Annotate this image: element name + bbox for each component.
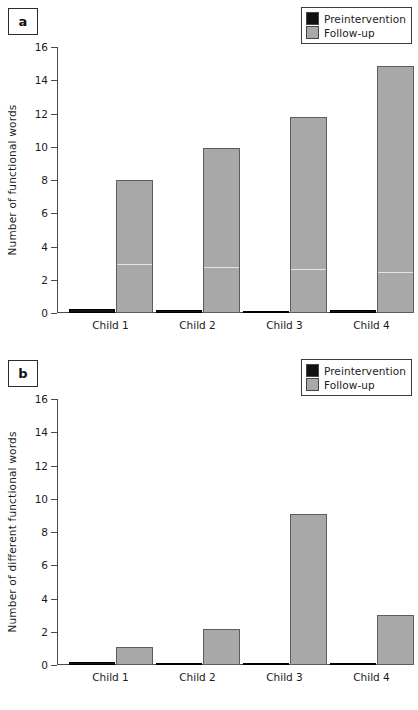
legend-label-preintervention: Preintervention	[324, 365, 406, 377]
legend-panel-b: Preintervention Follow-up	[301, 359, 412, 396]
x-tick-label: Child 4	[353, 671, 390, 683]
bar-preintervention	[243, 663, 289, 665]
bar-preintervention	[330, 310, 376, 313]
bar-group: Child 3	[231, 399, 318, 665]
y-tick-label: 6	[41, 207, 48, 219]
y-tick-label: 14	[35, 426, 48, 438]
y-tick-mark	[51, 313, 57, 314]
y-tick-label: 0	[41, 307, 48, 319]
bar-preintervention	[69, 309, 115, 313]
y-tick-label: 8	[41, 174, 48, 186]
y-tick-label: 14	[35, 74, 48, 86]
y-tick-mark	[51, 665, 57, 666]
x-tick-label: Child 2	[179, 319, 216, 331]
legend-item-followup: Follow-up	[306, 26, 406, 39]
figure-panels: a Preintervention Follow-up Number of fu…	[0, 0, 418, 710]
legend-swatch-followup-icon	[306, 378, 319, 391]
legend-swatch-preintervention-icon	[306, 12, 319, 25]
legend-swatch-followup-icon	[306, 26, 319, 39]
bar-followup	[377, 615, 414, 665]
y-axis-title-b-text: Number of different functional words	[6, 431, 18, 632]
x-tick-label: Child 3	[266, 319, 303, 331]
scan-artifact-line	[378, 272, 413, 273]
bar-followup	[377, 66, 414, 313]
bar-group: Child 3	[231, 47, 318, 313]
legend-item-followup: Follow-up	[306, 378, 406, 391]
y-tick-label: 16	[35, 41, 48, 53]
legend-swatch-preintervention-icon	[306, 364, 319, 377]
bar-preintervention	[243, 311, 289, 313]
bar-group: Child 1	[57, 47, 144, 313]
bar-group: Child 1	[57, 399, 144, 665]
x-tick-label: Child 2	[179, 671, 216, 683]
x-tick-label: Child 4	[353, 319, 390, 331]
y-axis-title-b: Number of different functional words	[4, 399, 20, 665]
y-tick-label: 10	[35, 141, 48, 153]
plot-area-a: 0246810121416 Child 1Child 2Child 3Child…	[57, 47, 405, 313]
x-tick-label: Child 1	[92, 319, 129, 331]
y-tick-label: 8	[41, 526, 48, 538]
y-tick-label: 10	[35, 493, 48, 505]
legend-label-followup: Follow-up	[324, 27, 375, 39]
y-tick-label: 12	[35, 108, 48, 120]
y-tick-label: 12	[35, 460, 48, 472]
y-tick-label: 0	[41, 659, 48, 671]
legend-label-followup: Follow-up	[324, 379, 375, 391]
y-tick-label: 2	[41, 626, 48, 638]
x-tick-label: Child 1	[92, 671, 129, 683]
bar-group: Child 2	[144, 399, 231, 665]
bar-preintervention	[330, 663, 376, 665]
legend-label-preintervention: Preintervention	[324, 13, 406, 25]
legend-item-preintervention: Preintervention	[306, 364, 406, 377]
y-tick-label: 16	[35, 393, 48, 405]
bar-preintervention	[156, 663, 202, 665]
y-axis-title-a-text: Number of functional words	[6, 104, 18, 255]
y-tick-label: 6	[41, 559, 48, 571]
y-axis-title-a: Number of functional words	[4, 47, 20, 313]
bar-preintervention	[69, 662, 115, 665]
bar-group: Child 2	[144, 47, 231, 313]
y-tick-label: 2	[41, 274, 48, 286]
panel-a: a Preintervention Follow-up Number of fu…	[0, 0, 418, 350]
y-tick-label: 4	[41, 593, 48, 605]
y-tick-label: 4	[41, 241, 48, 253]
x-tick-label: Child 3	[266, 671, 303, 683]
plot-area-b: 0246810121416 Child 1Child 2Child 3Child…	[57, 399, 405, 665]
legend-panel-a: Preintervention Follow-up	[301, 7, 412, 44]
bar-group: Child 4	[318, 399, 405, 665]
bar-group: Child 4	[318, 47, 405, 313]
bar-preintervention	[156, 310, 202, 313]
legend-item-preintervention: Preintervention	[306, 12, 406, 25]
panel-letter-a: a	[8, 8, 38, 35]
panel-letter-b: b	[8, 360, 38, 387]
panel-b: b Preintervention Follow-up Number of di…	[0, 352, 418, 702]
